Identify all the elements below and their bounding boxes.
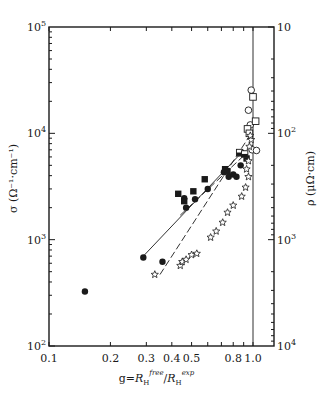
x-tick-label: 0.2 <box>102 352 120 365</box>
open-star-marker <box>238 193 245 200</box>
y-left-tick-label: 105 <box>27 19 46 34</box>
open-star-marker <box>242 184 249 191</box>
half-square-fill <box>241 154 247 157</box>
open-star-marker <box>193 250 200 257</box>
filled-circle-marker <box>159 259 165 265</box>
filled-circle-marker <box>192 196 198 202</box>
y-left-axis-title: σ (Ω⁻¹·cm⁻¹) <box>7 144 20 213</box>
open-star-marker <box>243 165 250 172</box>
filled-square-marker <box>181 198 187 204</box>
open-star-marker <box>207 234 214 241</box>
x-axis-title: g=RHfree/RHexp <box>119 369 195 387</box>
plot-area <box>82 27 260 346</box>
open-star-marker <box>245 173 252 180</box>
filled-circle-marker <box>233 174 239 180</box>
x-tick-label: 0.4 <box>163 352 181 365</box>
y-left-tick-label: 102 <box>27 338 46 353</box>
y-right-tick-label: 103 <box>277 232 296 247</box>
filled-circle-marker <box>237 162 243 168</box>
y-right-tick-label: 102 <box>277 125 296 140</box>
filled-circle-marker <box>205 186 211 192</box>
open-star-marker <box>230 202 237 209</box>
filled-square-marker <box>190 188 196 194</box>
open-star-marker <box>224 209 231 216</box>
filled-square-marker <box>202 176 208 182</box>
open-circle-marker <box>248 87 255 94</box>
x-tick-label: 0.1 <box>40 352 58 365</box>
filled-square-marker <box>175 191 181 197</box>
open-star-marker <box>213 227 220 234</box>
x-tick-label: 0.8 <box>224 352 242 365</box>
open-square-marker <box>252 118 259 125</box>
axis-labels: 0.10.20.30.40.50.81.01021031041051010210… <box>7 19 317 387</box>
y-right-tick-label: 104 <box>277 338 296 353</box>
x-tick-label: 0.5 <box>183 352 201 365</box>
y-right-tick-label: 10 <box>277 21 291 34</box>
x-tick-label: 0.3 <box>138 352 156 365</box>
open-circle-marker <box>245 107 252 114</box>
open-star-marker <box>151 271 158 278</box>
y-right-axis-title: ρ (μΩ·cm) <box>304 151 317 206</box>
open-star-marker <box>219 219 226 226</box>
y-left-tick-label: 103 <box>27 232 46 247</box>
middle-line <box>180 154 245 215</box>
chart: 0.10.20.30.40.50.81.01021031041051010210… <box>0 0 326 397</box>
plot-frame <box>49 27 274 346</box>
x-tick-label: 1.0 <box>244 352 262 365</box>
filled-circle-marker <box>140 254 146 260</box>
open-circle-marker <box>253 147 260 154</box>
filled-square-marker <box>224 168 230 174</box>
filled-circle-marker <box>82 288 88 294</box>
filled-circle-marker <box>183 204 189 210</box>
y-left-tick-label: 104 <box>27 125 46 140</box>
axes <box>49 27 274 346</box>
open-square-marker <box>250 94 257 101</box>
